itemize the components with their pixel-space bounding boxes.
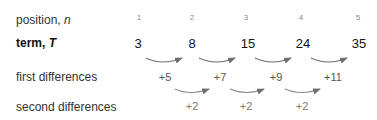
first-difference-value: +11 (324, 71, 342, 83)
term-value: 15 (241, 36, 255, 51)
position-variable: n (64, 13, 71, 27)
row-label-second-differences: second differences (16, 100, 117, 114)
first-difference-value: +7 (214, 71, 227, 83)
term-label-text: term, (16, 36, 49, 50)
arrow-icon (255, 58, 291, 62)
term-value: 35 (352, 36, 366, 51)
arrow-icon (146, 58, 182, 62)
row-label-first-differences: first differences (16, 70, 97, 84)
arrow-icon (285, 89, 320, 93)
term-value: 24 (296, 36, 310, 51)
position-value: 1 (137, 13, 141, 22)
term-value: 8 (188, 36, 195, 51)
position-value: 5 (356, 13, 360, 22)
second-difference-value: +2 (240, 100, 253, 112)
row-label-term: term, T (16, 36, 56, 50)
arrow-icon (230, 89, 264, 93)
position-value: 2 (190, 13, 194, 22)
position-value: 3 (244, 13, 248, 22)
first-difference-value: +5 (159, 71, 172, 83)
term-value: 3 (134, 36, 141, 51)
position-value: 4 (299, 13, 303, 22)
row-label-position: position, n (16, 13, 71, 27)
second-difference-value: +2 (186, 100, 199, 112)
arrow-icon (175, 89, 209, 93)
arrow-icon (311, 58, 347, 62)
arrow-icon (199, 58, 235, 62)
position-label-text: position, (16, 13, 64, 27)
second-difference-value: +2 (296, 100, 309, 112)
first-difference-value: +9 (270, 71, 283, 83)
term-variable: T (49, 36, 56, 50)
